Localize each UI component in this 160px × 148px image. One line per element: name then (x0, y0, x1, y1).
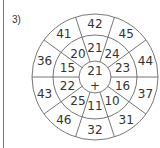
inner-ring-cell: 23 (115, 61, 130, 75)
outer-ring-cell: 31 (119, 113, 134, 127)
outer-ring-cell: 37 (138, 87, 153, 101)
outer-ring-cell: 45 (119, 27, 134, 41)
outer-ring-cell: 32 (87, 123, 102, 137)
inner-ring-cell: 22 (60, 79, 75, 93)
inner-ring-cell: 21 (87, 41, 102, 55)
center-operator: + (90, 79, 100, 93)
outer-ring-cell: 36 (37, 54, 52, 68)
inner-ring-cell: 11 (87, 99, 102, 113)
inner-ring-cell: 15 (60, 61, 75, 75)
outer-ring-cell: 46 (56, 113, 71, 127)
inner-ring-cell: 16 (115, 79, 130, 93)
inner-ring-cell: 20 (70, 47, 85, 61)
inner-ring-cell: 10 (104, 94, 119, 108)
center-value: 21 (87, 64, 102, 78)
inner-ring-cell: 25 (70, 94, 85, 108)
outer-ring-cell: 43 (37, 87, 52, 101)
outer-ring-cell: 44 (138, 54, 153, 68)
inner-ring-cell: 24 (104, 47, 119, 61)
outer-ring-cell: 42 (87, 17, 102, 31)
outer-ring-cell: 41 (56, 27, 71, 41)
number-wheel: 21242316101125221520 4245443731324643364… (0, 0, 160, 148)
